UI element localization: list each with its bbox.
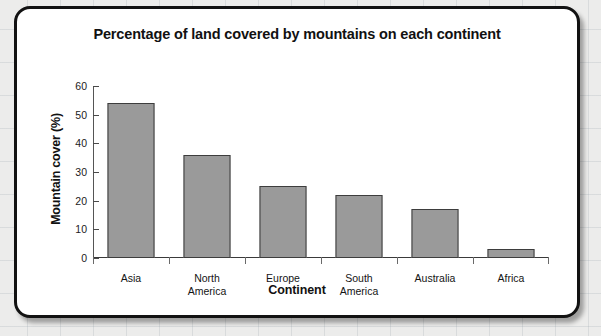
bar-europe[interactable] (260, 186, 307, 258)
bar-slot (93, 74, 169, 258)
x-tick-mark (397, 257, 398, 264)
y-tick-label: 60 (53, 80, 87, 92)
bar-series (93, 74, 549, 258)
x-tick-mark (548, 257, 549, 264)
bar-africa[interactable] (488, 249, 535, 258)
chart-title: Percentage of land covered by mountains … (17, 26, 577, 42)
y-tick-label: 20 (53, 195, 87, 207)
y-tick-label: 30 (53, 166, 87, 178)
x-tick-mark (245, 257, 246, 264)
y-tick-label: 50 (53, 109, 87, 121)
bar-slot (397, 74, 473, 258)
bar-north-america[interactable] (184, 155, 231, 258)
x-tick-mark (473, 257, 474, 264)
x-tick-mark (321, 257, 322, 264)
bar-slot (245, 74, 321, 258)
x-axis-title: Continent (17, 283, 577, 297)
y-tick-label: 0 (53, 252, 87, 264)
bar-slot (473, 74, 549, 258)
plot-area: Mountain cover (%) 0102030405060 AsiaNor… (93, 74, 549, 264)
y-tick-label: 40 (53, 137, 87, 149)
bar-slot (169, 74, 245, 258)
x-tick-mark (169, 257, 170, 264)
bar-asia[interactable] (108, 103, 155, 258)
chart-card: Percentage of land covered by mountains … (14, 6, 580, 318)
x-tick-mark (93, 257, 94, 264)
bar-slot (321, 74, 397, 258)
y-tick-label: 10 (53, 223, 87, 235)
bar-australia[interactable] (412, 209, 459, 258)
bar-south-america[interactable] (336, 195, 383, 258)
